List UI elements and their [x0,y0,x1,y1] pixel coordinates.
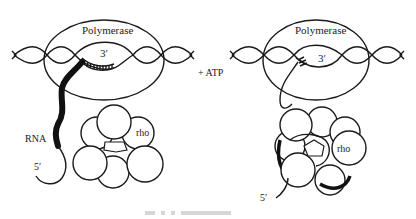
atp-label: + ATP [198,67,224,78]
left-panel: Polymerase 3′ RNA 5′ rho [12,20,194,188]
right-polymerase-label: Polymerase [295,24,346,36]
right-5prime-label: 5′ [260,192,267,203]
rna-label: RNA [25,133,47,144]
right-rho-hexamer [275,107,366,195]
left-polymerase-label: Polymerase [82,24,133,36]
left-rna-strand-thick [56,62,82,146]
left-3prime-label: 3′ [100,47,108,59]
right-rho-label: rho [337,143,350,154]
left-rho-label: rho [136,127,149,138]
faint-caption-remnant [145,211,275,217]
left-5prime-label: 5′ [34,161,41,172]
right-dna-helix [230,45,404,67]
left-rho-hexamer [73,105,163,188]
rho-termination-diagram: Polymerase 3′ RNA 5′ rho + ATP [0,0,416,219]
right-3prime-label: 3′ [318,52,326,64]
right-panel: Polymerase 3′ 5′ rho [230,20,404,203]
right-rna-strand [280,62,298,108]
